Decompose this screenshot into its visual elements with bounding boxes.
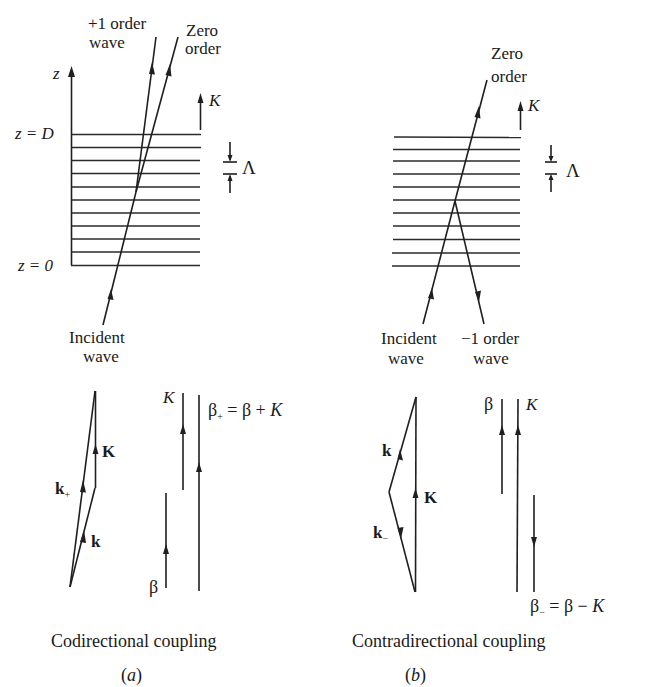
- K-arrowhead-icon: [515, 425, 521, 435]
- z-equals-D-label: z = D: [14, 124, 55, 143]
- K-label: K: [424, 488, 438, 507]
- beta-plus-arrowhead-icon: [196, 462, 202, 472]
- plus-one-label-line1: +1 order: [88, 14, 147, 33]
- minus-one-order-ray: [455, 201, 484, 324]
- incident-label-line2: wave: [388, 349, 424, 368]
- caption-a: Codirectional coupling: [51, 631, 216, 651]
- grating-vector-label: K: [208, 91, 222, 110]
- beta-label: β: [149, 577, 158, 597]
- plus-one-label-line2: wave: [89, 33, 125, 52]
- beta-label: β: [484, 394, 493, 414]
- beta-plus-equation: β+ = β + K: [208, 400, 283, 422]
- zero-order-label-line1: Zero: [186, 21, 218, 40]
- k-vector: [389, 397, 416, 492]
- k-plus-label: k+: [55, 479, 70, 500]
- panel-b-wavevector-diagram: k K k−: [373, 397, 438, 592]
- grating-lines: [71, 135, 201, 266]
- grating-lines: [392, 137, 521, 266]
- panel-a-wavevector-diagram: K k+ k: [55, 391, 116, 587]
- k-minus-vector: [389, 492, 415, 592]
- K-arrowhead-icon: [93, 444, 99, 454]
- zero-order-label-line2: order: [185, 39, 221, 58]
- incident-arrowhead-icon: [428, 288, 434, 300]
- k-label: k: [382, 441, 392, 460]
- panel-b-propagation-constants: β K β− = β − K: [484, 394, 605, 618]
- z-equals-0-label: z = 0: [17, 256, 54, 275]
- K-label: K: [525, 395, 539, 414]
- incident-label-line2: wave: [83, 347, 119, 366]
- panel-a-grating: z z = D z = 0 K Λ: [14, 14, 256, 366]
- minus-one-label-line1: −1 order: [461, 329, 520, 348]
- period-label: Λ: [242, 157, 256, 178]
- k-minus-label: k−: [373, 523, 388, 544]
- zero-order-label-line2: order: [491, 67, 527, 86]
- K-arrowhead-icon: [518, 101, 524, 111]
- incident-ray: [423, 201, 455, 324]
- plus-one-arrowhead-icon: [149, 62, 155, 75]
- minus-one-label-line2: wave: [473, 349, 509, 368]
- panel-a-tag: (a): [121, 665, 142, 686]
- zero-order-ray: [455, 80, 487, 201]
- caption-b: Contradirectional coupling: [352, 631, 545, 651]
- beta-arrowhead-icon: [163, 544, 169, 554]
- incident-arrowhead-icon: [108, 289, 114, 300]
- panel-a-propagation-constants: K β β+ = β + K: [149, 388, 283, 597]
- zero-order-ray: [136, 37, 178, 192]
- K-arrowhead-icon: [180, 424, 186, 434]
- K-label: K: [162, 388, 176, 407]
- grating-vector-label: K: [527, 96, 541, 115]
- z-axis-label: z: [52, 64, 60, 83]
- k-plus-arrowhead-icon: [80, 480, 86, 493]
- k-label: k: [91, 532, 101, 551]
- incident-ray: [103, 192, 136, 325]
- incident-label-line1: Incident: [381, 329, 437, 348]
- z-axis-arrow-icon: [68, 66, 75, 77]
- k-minus-arrowhead-icon: [398, 527, 404, 539]
- period-marker: [223, 142, 237, 193]
- grating-coupling-figure: z z = D z = 0 K Λ: [0, 0, 645, 687]
- k-arrowhead-icon: [80, 530, 86, 543]
- k-arrowhead-icon: [398, 449, 404, 461]
- K-label: K: [102, 442, 116, 461]
- panel-b-grating: K Λ Zero order Incident wave −1 order wa…: [381, 44, 580, 368]
- beta-arrowhead-icon: [499, 425, 505, 435]
- panel-b-tag: (b): [405, 665, 426, 686]
- period-label: Λ: [566, 160, 580, 181]
- K-arrowhead-icon: [413, 488, 419, 498]
- plus-one-order-ray: [136, 37, 156, 192]
- period-marker: [545, 145, 557, 192]
- zero-order-label-line1: Zero: [491, 44, 523, 63]
- incident-label-line1: Incident: [69, 328, 125, 347]
- K-arrowhead-icon: [198, 93, 204, 103]
- beta-minus-arrowhead-icon: [531, 537, 537, 547]
- beta-minus-equation: β− = β − K: [530, 596, 605, 618]
